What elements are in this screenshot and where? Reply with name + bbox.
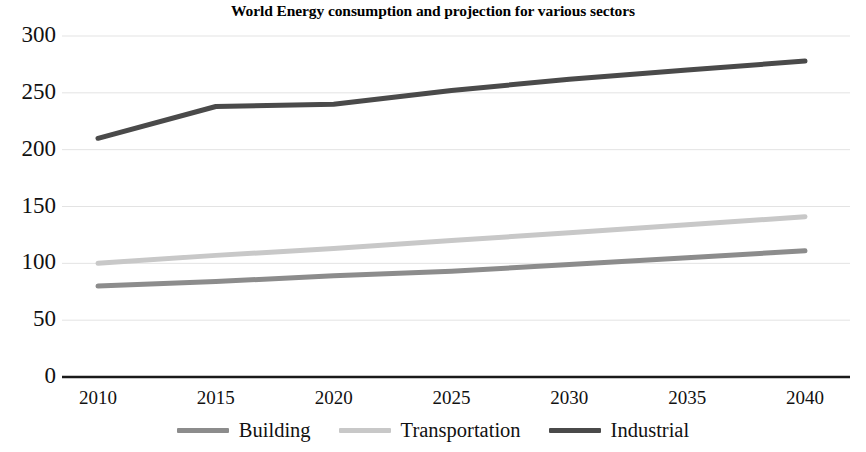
chart-container: World Energy consumption and projection …	[0, 0, 866, 452]
legend-swatch-icon	[339, 428, 391, 433]
chart-legend: BuildingTransportationIndustrial	[0, 420, 866, 441]
plot-area	[0, 0, 866, 452]
legend-label: Industrial	[611, 420, 690, 441]
x-axis-tick-label: 2015	[171, 388, 261, 407]
series-lines	[98, 61, 805, 286]
gridlines	[62, 36, 850, 320]
legend-swatch-icon	[549, 428, 601, 433]
x-axis-tick-label: 2020	[289, 388, 379, 407]
y-axis-tick-label: 0	[0, 364, 56, 387]
legend-item-transportation[interactable]: Transportation	[339, 420, 521, 441]
legend-item-industrial[interactable]: Industrial	[549, 420, 690, 441]
x-axis-tick-label: 2010	[53, 388, 143, 407]
y-axis-tick-label: 250	[0, 80, 56, 103]
legend-item-building[interactable]: Building	[177, 420, 311, 441]
legend-swatch-icon	[177, 428, 229, 433]
x-axis-tick-label: 2040	[760, 388, 850, 407]
x-axis-tick-label: 2030	[524, 388, 614, 407]
legend-label: Transportation	[401, 420, 521, 441]
y-axis-tick-label: 150	[0, 194, 56, 217]
x-axis-tick-label: 2025	[407, 388, 497, 407]
y-axis-tick-label: 200	[0, 137, 56, 160]
legend-label: Building	[239, 420, 311, 441]
series-line-industrial	[98, 61, 805, 138]
y-axis-tick-label: 300	[0, 23, 56, 46]
y-axis-tick-label: 100	[0, 250, 56, 273]
x-axis-tick-label: 2035	[642, 388, 732, 407]
y-axis-tick-label: 50	[0, 307, 56, 330]
